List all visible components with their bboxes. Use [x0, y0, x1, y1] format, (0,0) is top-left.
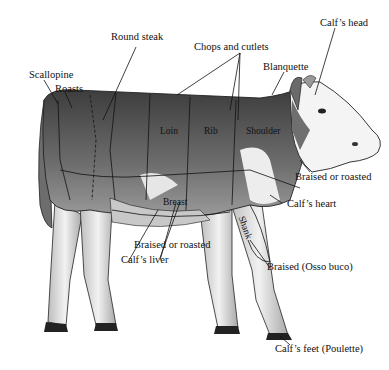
label-calfs-heart: Calf’s heart: [287, 199, 336, 210]
label-round-steak: Round steak: [111, 32, 163, 43]
label-shoulder: Shoulder: [246, 127, 280, 137]
label-scallopine: Scallopine: [29, 70, 73, 81]
label-blanquette: Blanquette: [263, 62, 309, 73]
label-rib: Rib: [204, 127, 218, 137]
label-roasts: Roasts: [55, 84, 83, 95]
label-braised-or-roasted-left: Braised or roasted: [134, 240, 210, 251]
label-braised-osso-buco: Braised (Osso buco): [267, 262, 353, 273]
label-loin: Loin: [160, 127, 178, 137]
label-braised-or-roasted-right: Braised or roasted: [295, 172, 371, 183]
label-calfs-head: Calf’s head: [320, 18, 368, 29]
label-breast: Breast: [163, 198, 187, 208]
label-chops-and-cutlets: Chops and cutlets: [194, 42, 269, 53]
label-calfs-feet: Calf’s feet (Poulette): [275, 344, 363, 355]
label-calfs-liver: Calf’s liver: [121, 255, 169, 266]
calf-illustration: [0, 0, 389, 370]
